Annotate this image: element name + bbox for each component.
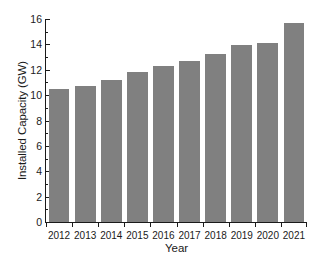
x-tick-mark bbox=[255, 222, 256, 227]
x-tick-mark bbox=[150, 222, 151, 227]
x-tick-label: 2015 bbox=[126, 230, 148, 241]
bar-2016 bbox=[153, 66, 174, 222]
x-tick-label: 2017 bbox=[178, 230, 200, 241]
bar-chart-figure: Installed Capacity (GW) 0246810121416 20… bbox=[0, 0, 316, 265]
y-tick-label: 0 bbox=[36, 216, 42, 228]
x-tick-label: 2012 bbox=[48, 230, 70, 241]
x-tick-label: 2020 bbox=[257, 230, 279, 241]
x-tick-label: 2013 bbox=[74, 230, 96, 241]
bar-2012 bbox=[49, 89, 70, 222]
bar-2015 bbox=[127, 72, 148, 222]
bar-2014 bbox=[101, 80, 122, 222]
y-tick-label: 16 bbox=[30, 13, 42, 25]
bar-2018 bbox=[205, 54, 226, 222]
y-tick-label: 4 bbox=[36, 165, 42, 177]
bar-2020 bbox=[257, 43, 278, 222]
x-tick-mark bbox=[177, 222, 178, 227]
bar-2019 bbox=[231, 45, 252, 222]
y-tick-label: 2 bbox=[36, 191, 42, 203]
x-tick-mark bbox=[98, 222, 99, 227]
x-tick-label: 2014 bbox=[100, 230, 122, 241]
x-tick-mark bbox=[306, 222, 307, 227]
bar-2013 bbox=[75, 86, 96, 222]
x-tick-mark bbox=[124, 222, 125, 227]
x-tick-label: 2019 bbox=[231, 230, 253, 241]
x-tick-mark bbox=[281, 222, 282, 227]
bar-2021 bbox=[284, 23, 305, 222]
y-tick-label: 8 bbox=[36, 115, 42, 127]
bar-2017 bbox=[179, 61, 200, 222]
x-tick-mark bbox=[229, 222, 230, 227]
y-tick-label: 12 bbox=[30, 64, 42, 76]
y-tick-label: 14 bbox=[30, 38, 42, 50]
y-tick-label: 6 bbox=[36, 140, 42, 152]
x-tick-label: 2016 bbox=[152, 230, 174, 241]
y-tick-label: 10 bbox=[30, 89, 42, 101]
x-tick-label: 2018 bbox=[205, 230, 227, 241]
x-tick-label: 2021 bbox=[283, 230, 305, 241]
x-tick-mark bbox=[203, 222, 204, 227]
y-axis-title: Installed Capacity (GW) bbox=[14, 19, 30, 222]
x-axis-title: Year bbox=[46, 242, 307, 254]
x-tick-mark bbox=[46, 222, 47, 227]
x-tick-mark bbox=[72, 222, 73, 227]
plot-area: 0246810121416 20122013201420152016201720… bbox=[46, 19, 307, 222]
bar-series bbox=[46, 19, 307, 222]
